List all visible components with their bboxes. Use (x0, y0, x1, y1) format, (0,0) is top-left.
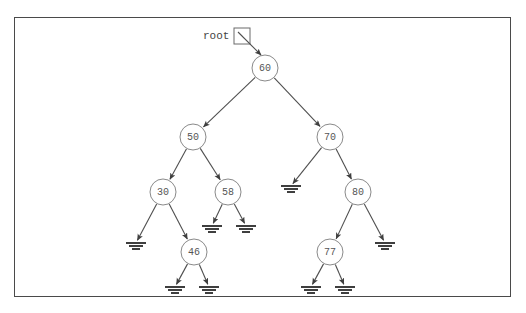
null-ground-icon (202, 226, 222, 232)
tree-node-50[interactable]: 50 (180, 124, 206, 150)
tree-edge-n80-to-g80R (364, 204, 383, 240)
null-ground-icon (301, 287, 321, 293)
null-ground-icon (335, 287, 355, 293)
tree-edge-n50-to-n58 (200, 148, 220, 179)
node-value-label: 77 (324, 247, 336, 258)
binary-search-tree-svg: 6050703058804677 root (0, 0, 526, 313)
tree-edge-n30-to-g30L (137, 204, 156, 240)
tree-node-77[interactable]: 77 (317, 239, 343, 265)
null-ground-icon (165, 287, 185, 293)
tree-edge-n46-to-g46L (176, 264, 187, 284)
null-ground-icon (375, 243, 395, 249)
node-value-label: 80 (352, 187, 364, 198)
tree-edge-n77-to-g77R (335, 264, 344, 284)
tree-edge-n58-to-g58R (234, 204, 244, 223)
root-label: root (203, 30, 229, 42)
tree-edge-n77-to-g77L (312, 264, 323, 284)
null-ground-icon (236, 226, 256, 232)
diagram-canvas: 6050703058804677 root (0, 0, 526, 313)
tree-edge-n30-to-n46 (169, 204, 187, 239)
tree-edge-n70-to-n80 (336, 149, 351, 179)
tree-edge-n80-to-n77 (336, 204, 352, 239)
null-ground-icon (199, 287, 219, 293)
null-ground-icon (281, 186, 301, 192)
node-value-label: 58 (222, 187, 234, 198)
tree-node-30[interactable]: 30 (150, 179, 176, 205)
node-value-label: 70 (324, 132, 336, 143)
node-value-label: 30 (157, 187, 169, 198)
tree-node-58[interactable]: 58 (215, 179, 241, 205)
tree-edge-n60-to-n50 (203, 77, 255, 127)
tree-edge-n46-to-g46R (199, 264, 208, 284)
tree-nodes: 6050703058804677 (150, 55, 371, 265)
tree-node-80[interactable]: 80 (345, 179, 371, 205)
node-value-label: 60 (259, 63, 271, 74)
tree-edge-n58-to-g58L (213, 204, 222, 223)
tree-node-46[interactable]: 46 (181, 239, 207, 265)
tree-node-70[interactable]: 70 (317, 124, 343, 150)
tree-node-60[interactable]: 60 (252, 55, 278, 81)
tree-edge-n50-to-n30 (170, 149, 187, 179)
tree-edges (137, 77, 383, 284)
tree-edge-n70-to-g70L (293, 148, 322, 184)
node-value-label: 46 (188, 247, 200, 258)
node-value-label: 50 (187, 132, 199, 143)
tree-edge-n60-to-n70 (274, 78, 320, 127)
null-ground-icon (126, 243, 146, 249)
root-pointer: root (203, 28, 261, 55)
